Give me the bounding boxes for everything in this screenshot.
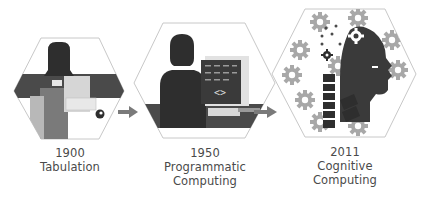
stage-1950-hexagon: <> — [130, 23, 280, 138]
stage-1950-label: 1950 Programmatic Computing — [150, 146, 260, 188]
stage-2011-title-line1: Cognitive — [295, 159, 395, 173]
stage-1900-label: 1900 Tabulation — [20, 146, 120, 174]
stage-1900-year: 1900 — [20, 146, 120, 160]
arrow-right-icon — [118, 106, 138, 118]
stage-2011-year: 2011 — [295, 145, 395, 159]
stage-1950-year: 1950 — [150, 146, 260, 160]
stage-2011-label: 2011 Cognitive Computing — [295, 145, 395, 187]
stage-2011-hexagon — [272, 8, 416, 137]
stage-1900-title: Tabulation — [20, 160, 120, 174]
stage-2011-title-line2: Computing — [295, 173, 395, 187]
stage-1950-title-line1: Programmatic — [150, 160, 260, 174]
svg-text:<>: <> — [214, 87, 226, 98]
stage-1900-hexagon — [10, 38, 130, 140]
stage-1950-title-line2: Computing — [150, 174, 260, 188]
